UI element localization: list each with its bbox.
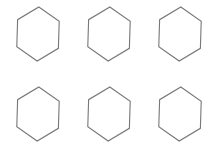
hexagon-shape — [88, 87, 130, 141]
hexagon-shape — [17, 87, 59, 141]
hexagon-shape — [17, 7, 59, 61]
hexagon-shape — [159, 7, 201, 61]
hexagon-shape — [88, 7, 130, 61]
hexagon-shape — [159, 87, 201, 141]
hexagon-grid — [0, 0, 219, 158]
